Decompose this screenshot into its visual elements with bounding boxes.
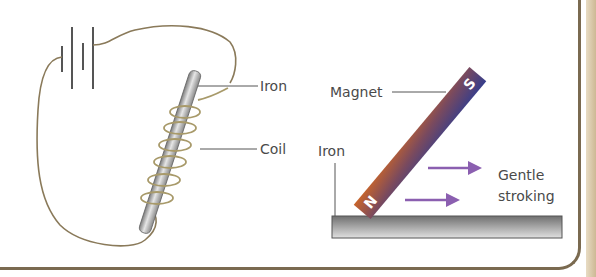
stroking-diagram: Iron S N Magnet Gentle stroking [318,67,562,238]
arrow-right-icon [405,193,460,207]
label-magnet: Magnet [330,84,383,100]
diagram-canvas: Iron Coil Iron S N Magnet Gentle strokin… [0,0,596,277]
label-coil: Coil [260,141,286,157]
battery-icon [62,27,93,89]
label-stroking: stroking [498,188,555,204]
iron-bar [332,216,562,238]
wire [37,26,236,246]
label-iron-bar: Iron [318,143,345,159]
label-iron: Iron [260,78,287,94]
electromagnet-diagram: Iron Coil [37,26,287,246]
iron-rod [138,69,202,234]
arrow-right-icon [428,161,482,175]
label-gentle: Gentle [498,167,544,183]
